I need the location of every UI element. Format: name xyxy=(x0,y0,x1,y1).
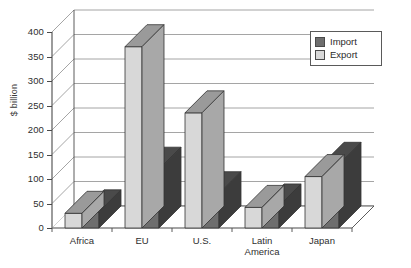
bar-export-u-s--front xyxy=(185,113,202,228)
legend-item-export: Export xyxy=(315,48,377,61)
grid-depth-400 xyxy=(52,10,74,32)
legend-label-export: Export xyxy=(330,49,357,60)
legend-swatch-import xyxy=(315,37,325,47)
bar-export-africa-front xyxy=(65,213,82,228)
bar-export-u-s--side xyxy=(202,91,224,228)
bar-export-japan-front xyxy=(305,177,322,228)
bar-export-eu-front xyxy=(125,47,142,228)
legend-item-import: Import xyxy=(315,35,377,48)
x-axis-label-line: Japan xyxy=(282,235,362,246)
legend-swatch-export xyxy=(315,50,325,60)
x-axis-label-japan: Japan xyxy=(282,235,362,246)
bar-chart: $ billion 400350300250200150100500 Afric… xyxy=(0,0,411,268)
legend: Import Export xyxy=(310,31,382,66)
bar-export-latin-america-front xyxy=(245,207,262,228)
bar-export-eu-side xyxy=(142,25,164,228)
x-axis-label-line: America xyxy=(222,246,302,257)
legend-label-import: Import xyxy=(330,36,357,47)
